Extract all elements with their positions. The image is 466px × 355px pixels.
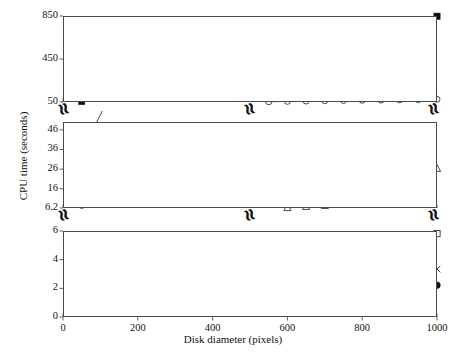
y-tick-label-middle-panel-4: 46 <box>19 124 58 135</box>
top-panel <box>63 16 437 102</box>
y-tick-label-middle-panel-3: 36 <box>19 143 58 154</box>
y-tick-label-bottom-panel-2: 4 <box>19 254 58 265</box>
y-tick-label-top-panel-2: 850 <box>19 10 58 21</box>
y-tick-label-bottom-panel-1: 2 <box>19 282 58 293</box>
y-tick-label-top-panel-1: 450 <box>19 53 58 64</box>
x-tick-label-5: 1000 <box>409 323 465 334</box>
x-tick-label-4: 800 <box>334 323 390 334</box>
y-tick-label-middle-panel-2: 26 <box>19 163 58 174</box>
y-tick-label-middle-panel-1: 16 <box>19 183 58 194</box>
y-tick-label-bottom-panel-0: 0 <box>19 311 58 322</box>
x-tick-label-1: 200 <box>110 323 166 334</box>
middle-panel <box>63 122 437 208</box>
y-tick-label-bottom-panel-3: 6 <box>19 225 58 236</box>
x-tick-label-2: 400 <box>185 323 241 334</box>
bottom-panel <box>63 231 437 317</box>
x-tick-label-3: 600 <box>259 323 315 334</box>
cpu-time-vs-disk-diameter-chart: CPU time (seconds) Disk diameter (pixels… <box>0 0 466 355</box>
x-tick-label-0: 0 <box>35 323 91 334</box>
